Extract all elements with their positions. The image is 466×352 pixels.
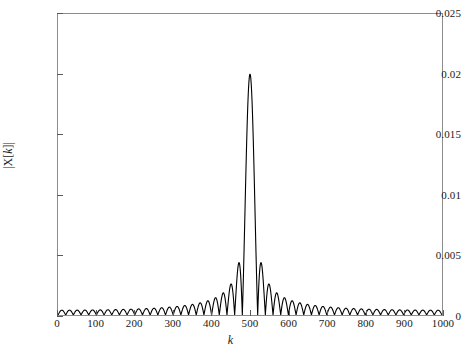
- y-tick-mark: [57, 134, 63, 135]
- y-tick-mark: [57, 255, 63, 256]
- y-tick-mark: [57, 74, 63, 75]
- y-tick-mark: [57, 13, 63, 14]
- x-tick-mark: [250, 310, 251, 316]
- y-tick-label: 0.015: [409, 129, 461, 140]
- x-tick-mark: [366, 310, 367, 316]
- x-tick-mark: [96, 310, 97, 316]
- y-tick-mark: [57, 195, 63, 196]
- x-axis-label: k: [0, 333, 461, 348]
- x-tick-label: 1000: [413, 318, 466, 329]
- x-tick-mark: [289, 310, 290, 316]
- x-tick-mark: [57, 310, 58, 316]
- y-tick-label: 0.02: [409, 69, 461, 80]
- x-tick-mark: [327, 310, 328, 316]
- plot-area: [57, 13, 443, 316]
- x-tick-mark: [134, 310, 135, 316]
- y-axis-label-variable: k: [1, 149, 15, 154]
- y-tick-label: 0.01: [409, 190, 461, 201]
- x-tick-mark: [443, 310, 444, 316]
- dirichlet-kernel-curve: [58, 14, 442, 315]
- y-tick-label: 0.025: [409, 8, 461, 19]
- y-axis-label-pre: |X[: [1, 154, 15, 169]
- y-axis-label-post: ]|: [1, 142, 15, 148]
- y-axis-label: |X[k]|: [1, 126, 16, 186]
- x-tick-mark: [173, 310, 174, 316]
- x-tick-mark: [211, 310, 212, 316]
- x-tick-mark: [404, 310, 405, 316]
- y-tick-label: 0.005: [409, 250, 461, 261]
